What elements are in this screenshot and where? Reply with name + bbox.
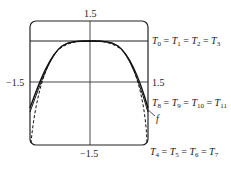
curve-t8-t11 xyxy=(30,41,148,112)
curve-t4-t7 xyxy=(31,41,147,143)
tick-x-right: 1.5 xyxy=(152,78,165,88)
plot-area xyxy=(0,0,231,170)
tick-y-top: 1.5 xyxy=(84,9,97,19)
tick-y-bottom: −1.5 xyxy=(80,149,98,159)
legend-t0-t3: T0 = T1 = T2 = T3 xyxy=(152,36,220,49)
curve-f xyxy=(30,41,148,108)
legend-t8-t11: T8 = T9 = T10 = T11 xyxy=(152,98,227,111)
legend-t4-t7: T4 = T5 = T6 = T7 xyxy=(150,147,218,160)
tick-x-left: −1.5 xyxy=(6,78,24,88)
label-f: f xyxy=(156,114,159,124)
plot-frame xyxy=(30,21,148,145)
